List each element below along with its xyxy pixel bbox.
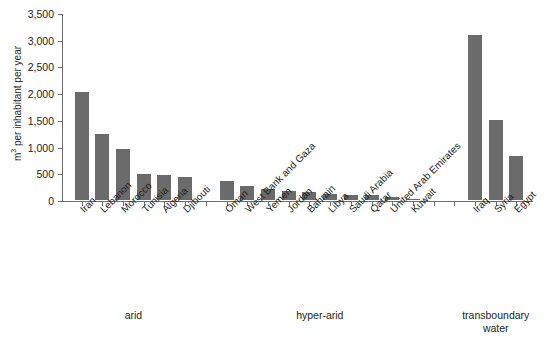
- y-axis-tick-mark: [58, 41, 62, 42]
- group-labels: aridhyper-aridtransboundarywater: [0, 309, 544, 349]
- y-axis-tick-label: 1,500: [18, 116, 54, 126]
- y-axis-tick-label: 3,500: [18, 9, 54, 19]
- y-axis-tick-mark: [58, 67, 62, 68]
- bar: [489, 120, 503, 200]
- plot-area: [62, 14, 532, 201]
- x-axis-category-labels: IranLebanonMoroccoTunisiaAlgeriaDjibouti…: [62, 201, 542, 301]
- bar: [468, 35, 482, 200]
- y-axis-tick-mark: [58, 148, 62, 149]
- y-axis-tick-label: 500: [18, 169, 54, 179]
- y-axis-tick-label: 1,000: [18, 143, 54, 153]
- group-label: hyper-arid: [260, 309, 380, 322]
- y-axis-tick-label: 3,000: [18, 36, 54, 46]
- group-label: transboundarywater: [436, 309, 544, 335]
- y-axis-tick-label: 2,500: [18, 62, 54, 72]
- bar: [75, 92, 89, 200]
- y-axis-tick-mark: [58, 94, 62, 95]
- y-axis-tick-label: 0: [18, 196, 54, 206]
- y-axis-tick-mark: [58, 14, 62, 15]
- group-label-line2: water: [436, 322, 544, 335]
- bar: [95, 134, 109, 200]
- y-axis-line: [62, 14, 63, 202]
- group-label: arid: [73, 309, 193, 322]
- y-axis-tick-mark: [58, 174, 62, 175]
- y-axis-tick-labels: 3,5003,0002,5002,0001,5001,0005000: [12, 0, 54, 349]
- y-axis-tick-label: 2,000: [18, 89, 54, 99]
- bar-chart: m3 per inhabitant per year 3,5003,0002,5…: [0, 0, 544, 349]
- y-axis-tick-mark: [58, 121, 62, 122]
